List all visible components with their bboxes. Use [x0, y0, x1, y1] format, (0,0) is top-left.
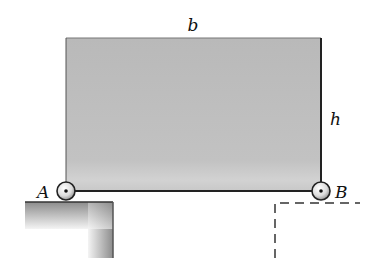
roller-support-b: [312, 182, 330, 200]
height-label-h: h: [330, 109, 341, 129]
ground-ledge-left: [25, 202, 113, 258]
support-label-b: B: [334, 182, 348, 202]
support-label-a: A: [35, 182, 49, 202]
ground-ledge-right-dashed: [275, 203, 360, 258]
width-label-b: b: [188, 15, 199, 35]
roller-support-a: [57, 182, 75, 200]
plate: [66, 38, 321, 191]
plate-on-rollers-diagram: b h A B: [0, 0, 378, 275]
